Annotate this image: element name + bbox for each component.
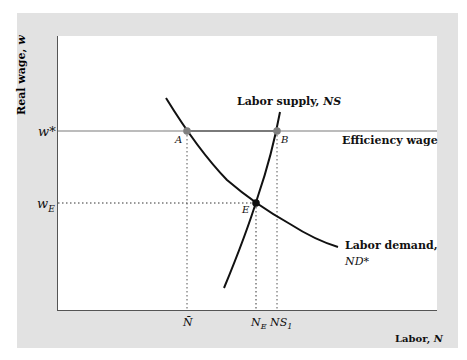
y-axis-label: Real wage, w bbox=[15, 35, 28, 115]
tick-n-e: NE bbox=[251, 316, 266, 331]
tick-n-bar: N̄ bbox=[183, 316, 193, 329]
point-a-marker bbox=[183, 127, 191, 135]
point-e-marker bbox=[252, 199, 260, 207]
labor-demand-label: Labor demand, bbox=[345, 239, 438, 252]
tick-w-e: wE bbox=[37, 196, 55, 214]
point-e-label: E bbox=[242, 204, 249, 215]
x-axis-label: Labor, N bbox=[395, 333, 443, 344]
tick-w-star: w* bbox=[38, 124, 56, 139]
labor-supply-label: Labor supply, NS bbox=[237, 95, 341, 108]
labor-demand-var: ND* bbox=[345, 255, 369, 268]
efficiency-wage-label: Efficiency wage bbox=[342, 134, 438, 147]
labor-demand-curve bbox=[166, 98, 338, 247]
tick-ns1: NS1 bbox=[270, 316, 292, 331]
point-b-label: B bbox=[281, 134, 288, 145]
point-b-marker bbox=[273, 127, 281, 135]
point-a-label: A bbox=[175, 134, 182, 145]
chart-svg bbox=[0, 0, 467, 360]
